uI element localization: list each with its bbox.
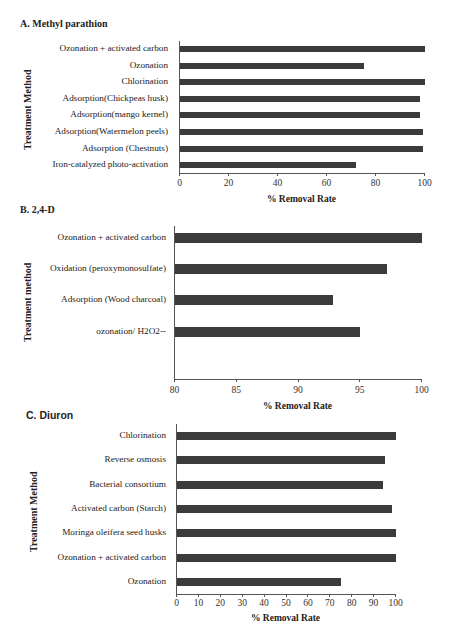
bar xyxy=(177,481,383,489)
x-tick-label: 10 xyxy=(194,598,204,608)
bar xyxy=(180,129,423,135)
category-label: Ozonation + activated carbon xyxy=(58,232,167,242)
x-tick xyxy=(421,379,422,382)
bar xyxy=(177,529,396,537)
bar xyxy=(180,79,425,85)
bar xyxy=(180,112,420,118)
chart-title: A. Methyl parathion xyxy=(20,18,108,29)
bar xyxy=(177,554,396,562)
x-tick xyxy=(298,379,299,382)
x-tick xyxy=(395,594,396,597)
x-tick xyxy=(359,379,360,382)
bar xyxy=(177,505,392,513)
x-tick xyxy=(373,594,374,597)
category-label: Chlorination xyxy=(120,430,166,440)
x-tick-label: 60 xyxy=(322,178,332,188)
bar xyxy=(180,96,420,102)
x-tick-label: 70 xyxy=(325,598,335,608)
bar xyxy=(180,162,356,168)
x-tick-label: 80 xyxy=(170,385,180,395)
chart-title: C. Diuron xyxy=(26,409,73,421)
x-tick-label: 90 xyxy=(293,385,303,395)
x-tick xyxy=(179,173,180,176)
bar xyxy=(175,233,422,243)
category-label: Adsorption (Chestnuts) xyxy=(82,143,168,153)
x-tick xyxy=(375,173,376,176)
x-tick-label: 90 xyxy=(369,598,379,608)
bar xyxy=(180,46,425,52)
x-tick xyxy=(329,594,330,597)
x-tick xyxy=(351,594,352,597)
category-label: Chlorination xyxy=(122,76,168,86)
x-tick xyxy=(220,594,221,597)
x-tick-label: 20 xyxy=(216,598,226,608)
category-label: Ozonation xyxy=(128,576,166,586)
x-tick-label: 85 xyxy=(232,385,242,395)
y-axis-label: Treatment method xyxy=(22,263,33,342)
x-axis-label: % Removal Rate xyxy=(251,613,320,623)
category-label: Adsorption(mango kernel) xyxy=(70,109,168,119)
x-tick-label: 60 xyxy=(303,598,313,608)
category-label: ozonation/ H2O2-- xyxy=(96,326,166,336)
x-tick-label: 100 xyxy=(414,385,428,395)
y-axis-label: Treatment Method xyxy=(22,70,33,150)
x-tick xyxy=(174,379,175,382)
x-tick xyxy=(264,594,265,597)
x-tick-label: 40 xyxy=(273,178,283,188)
bar xyxy=(175,327,360,337)
y-axis-label: Treatment Method xyxy=(28,472,39,552)
x-tick-label: 0 xyxy=(174,598,179,608)
x-tick-label: 30 xyxy=(237,598,247,608)
category-label: Reverse osmosis xyxy=(105,454,167,464)
category-label: Adsorption (Wood charcoal) xyxy=(61,294,166,304)
x-tick-label: 100 xyxy=(417,178,431,188)
x-tick xyxy=(307,594,308,597)
category-label: Moringa oleifera seed husks xyxy=(62,527,166,537)
y-axis-line xyxy=(179,41,180,173)
category-label: Adsorption(Watermelon peels) xyxy=(55,126,168,136)
x-tick-label: 80 xyxy=(347,598,357,608)
bar xyxy=(180,63,364,69)
x-tick-label: 40 xyxy=(259,598,269,608)
x-axis-label: % Removal Rate xyxy=(267,194,336,204)
x-tick-label: 100 xyxy=(388,598,402,608)
x-tick xyxy=(228,173,229,176)
bar xyxy=(175,264,387,274)
bar xyxy=(180,146,423,152)
x-tick xyxy=(198,594,199,597)
x-axis-line xyxy=(179,173,425,174)
x-tick xyxy=(176,594,177,597)
x-tick-label: 95 xyxy=(355,385,365,395)
category-label: Ozonation + activated carbon xyxy=(58,552,167,562)
x-tick xyxy=(242,594,243,597)
x-axis-label: % Removal Rate xyxy=(263,401,332,411)
x-tick-label: 0 xyxy=(177,178,182,188)
x-tick-label: 20 xyxy=(224,178,234,188)
bar xyxy=(177,578,341,586)
chart-title: B. 2,4-D xyxy=(20,204,55,215)
x-tick xyxy=(326,173,327,176)
x-tick xyxy=(424,173,425,176)
category-label: Ozonation xyxy=(130,60,168,70)
category-label: Iron-catalyzed photo-activation xyxy=(52,159,168,169)
category-label: Activated carbon (Starch) xyxy=(71,503,166,513)
x-tick-label: 80 xyxy=(371,178,381,188)
category-label: Bacterial consortium xyxy=(89,479,166,489)
x-tick-label: 50 xyxy=(281,598,291,608)
x-tick xyxy=(286,594,287,597)
bar xyxy=(175,295,333,305)
bar xyxy=(177,456,385,464)
category-label: Adsorption(Chickpeas husk) xyxy=(63,93,168,103)
category-label: Oxidation (peroxymonosulfate) xyxy=(50,263,166,273)
x-tick xyxy=(236,379,237,382)
x-tick xyxy=(277,173,278,176)
bar xyxy=(177,432,396,440)
category-label: Ozonation + activated carbon xyxy=(60,43,169,53)
